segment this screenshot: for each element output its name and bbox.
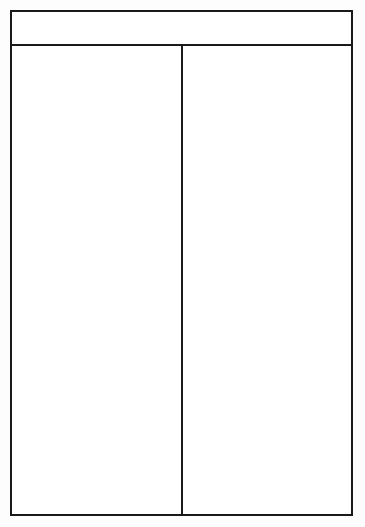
t-chart-left-column [12,46,183,514]
t-chart-body [12,46,351,514]
t-chart-right-column [183,46,351,514]
t-chart [10,10,353,516]
t-chart-header [12,12,351,46]
